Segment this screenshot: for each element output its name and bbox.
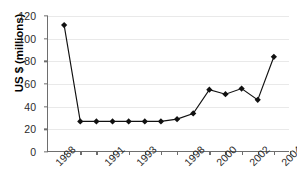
data-point-marker — [93, 118, 99, 124]
plot-inner: 020406080100120 — [48, 16, 289, 151]
y-tick-label: 60 — [0, 78, 36, 90]
y-tick-label: 80 — [0, 55, 36, 67]
data-point-marker — [190, 110, 196, 116]
y-tick-label: 40 — [0, 101, 36, 113]
data-point-marker — [158, 118, 164, 124]
y-tick-label: 0 — [0, 146, 36, 158]
data-point-marker — [222, 91, 228, 97]
data-point-marker — [126, 118, 132, 124]
data-point-marker — [61, 22, 67, 28]
plot-area: 020406080100120 — [47, 16, 289, 152]
data-point-marker — [77, 118, 83, 124]
line-chart: US $ (millions) 020406080100120 19881991… — [0, 0, 297, 193]
series-line — [64, 25, 274, 121]
y-tick-label: 100 — [0, 33, 36, 45]
series-layer — [48, 16, 290, 152]
data-point-marker — [206, 87, 212, 93]
y-tick-label: 120 — [0, 10, 36, 22]
data-point-marker — [142, 118, 148, 124]
data-point-marker — [271, 54, 277, 60]
data-point-marker — [109, 118, 115, 124]
data-point-marker — [174, 116, 180, 122]
y-tick-label: 20 — [0, 123, 36, 135]
